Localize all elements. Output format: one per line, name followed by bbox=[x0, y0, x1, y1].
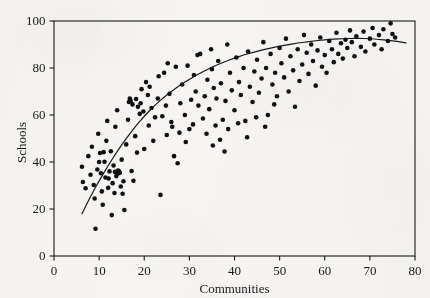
data-point bbox=[232, 108, 237, 113]
data-point bbox=[112, 191, 117, 196]
data-point bbox=[160, 114, 165, 119]
data-point bbox=[381, 27, 386, 32]
data-point bbox=[386, 39, 391, 44]
data-point bbox=[130, 102, 135, 107]
data-point bbox=[361, 29, 366, 34]
data-point bbox=[246, 49, 251, 54]
data-point bbox=[350, 40, 355, 45]
x-axis-title: Communities bbox=[199, 281, 269, 297]
data-point bbox=[204, 132, 209, 137]
data-point bbox=[214, 96, 219, 101]
data-point bbox=[202, 94, 207, 99]
data-point bbox=[239, 93, 244, 98]
data-point bbox=[288, 54, 293, 59]
data-point bbox=[306, 72, 311, 77]
data-point bbox=[311, 59, 316, 64]
data-point bbox=[100, 202, 105, 207]
data-point bbox=[368, 36, 373, 41]
y-tick-label: 60 bbox=[33, 107, 46, 123]
data-point bbox=[195, 53, 200, 58]
data-point bbox=[272, 102, 277, 107]
data-point bbox=[248, 85, 253, 90]
data-point bbox=[111, 163, 116, 168]
data-point bbox=[149, 106, 154, 111]
data-point bbox=[222, 149, 227, 154]
data-point bbox=[193, 89, 198, 94]
data-point bbox=[187, 127, 192, 132]
data-point bbox=[175, 161, 180, 166]
data-point bbox=[254, 115, 259, 120]
data-point bbox=[126, 117, 131, 122]
data-point bbox=[377, 33, 382, 38]
data-point bbox=[234, 55, 239, 60]
plot-canvas bbox=[0, 0, 430, 298]
data-point bbox=[142, 147, 147, 152]
x-tick-label: 50 bbox=[273, 263, 286, 279]
data-point bbox=[343, 38, 348, 43]
data-point bbox=[370, 26, 375, 31]
data-point bbox=[169, 120, 174, 125]
y-tick-label: 100 bbox=[26, 13, 46, 29]
data-point bbox=[115, 171, 120, 176]
x-tick-label: 0 bbox=[51, 263, 58, 279]
data-point bbox=[363, 49, 368, 54]
data-point bbox=[339, 41, 344, 46]
data-point bbox=[237, 80, 242, 85]
data-point bbox=[189, 97, 194, 102]
y-tick-label: 40 bbox=[33, 154, 46, 170]
fit-curve bbox=[82, 38, 406, 213]
data-point bbox=[229, 88, 234, 93]
data-point bbox=[345, 46, 350, 51]
data-point bbox=[156, 74, 161, 79]
data-point bbox=[201, 116, 206, 121]
data-point bbox=[336, 52, 341, 57]
data-point bbox=[297, 79, 302, 84]
data-point bbox=[225, 42, 230, 47]
scatter-plot-figure: 01020304050607080020406080100Communities… bbox=[0, 0, 430, 298]
data-point bbox=[91, 183, 96, 188]
data-point bbox=[372, 42, 377, 47]
data-point bbox=[113, 124, 118, 129]
data-point bbox=[393, 35, 398, 40]
data-point bbox=[101, 150, 106, 155]
data-point bbox=[250, 100, 255, 105]
data-point bbox=[119, 157, 124, 162]
data-point bbox=[243, 119, 248, 124]
data-point bbox=[388, 21, 393, 26]
x-tick-label: 40 bbox=[228, 263, 241, 279]
data-point bbox=[315, 48, 320, 53]
data-point bbox=[268, 52, 273, 57]
data-point bbox=[295, 47, 300, 52]
data-point bbox=[379, 47, 384, 52]
data-point bbox=[104, 139, 109, 144]
data-point bbox=[318, 35, 323, 40]
data-point bbox=[270, 82, 275, 87]
data-point bbox=[86, 154, 91, 159]
data-point bbox=[83, 186, 88, 191]
data-point bbox=[172, 154, 177, 159]
data-point bbox=[220, 117, 225, 122]
data-point bbox=[183, 113, 188, 118]
data-point bbox=[279, 61, 284, 66]
data-point bbox=[133, 134, 138, 139]
y-tick-label: 80 bbox=[33, 60, 46, 76]
data-point bbox=[153, 115, 158, 120]
data-point bbox=[211, 86, 216, 91]
data-point bbox=[167, 92, 172, 97]
data-point bbox=[284, 36, 289, 41]
y-tick-label: 0 bbox=[39, 248, 46, 264]
data-point bbox=[110, 181, 115, 186]
data-point bbox=[228, 70, 233, 75]
data-point bbox=[131, 179, 136, 184]
y-tick-label: 20 bbox=[33, 201, 46, 217]
data-point bbox=[341, 56, 346, 61]
data-point bbox=[218, 137, 223, 142]
data-point bbox=[106, 186, 111, 191]
data-point bbox=[245, 135, 250, 140]
data-point bbox=[124, 142, 129, 147]
data-point bbox=[97, 160, 102, 165]
data-point bbox=[121, 179, 126, 184]
data-point bbox=[170, 124, 175, 129]
data-point bbox=[80, 164, 85, 169]
data-point bbox=[304, 50, 309, 55]
